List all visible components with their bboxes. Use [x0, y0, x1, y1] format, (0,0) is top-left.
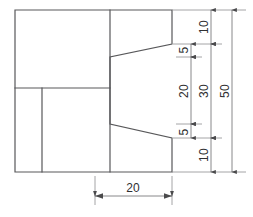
technical-drawing-canvas: 5 20 5 10 30 10 50 20	[0, 0, 253, 217]
dim-label-mid-top: 10	[197, 20, 211, 34]
arrow-bottom-left	[95, 193, 103, 198]
part-outline-path	[15, 10, 172, 172]
extension-lines-group	[95, 10, 246, 205]
dim-label-left-top: 5	[177, 46, 191, 53]
arrow-bottom-right	[164, 193, 172, 198]
dimension-column-middle: 10 30 10	[197, 10, 211, 172]
dim-label-mid-bottom: 10	[197, 148, 211, 162]
dim-label-left-mid: 20	[177, 84, 191, 98]
dimension-column-right: 50	[218, 10, 232, 172]
dimension-bottom-horizontal: 20	[95, 181, 172, 199]
dim-label-left-bottom: 5	[177, 128, 191, 135]
dim-label-right-total: 50	[218, 84, 232, 98]
dim-label-bottom-width: 20	[126, 181, 140, 195]
engineering-drawing-svg: 5 20 5 10 30 10 50 20	[0, 0, 253, 217]
dim-label-mid-mid: 30	[197, 84, 211, 98]
part-geometry	[15, 10, 172, 172]
